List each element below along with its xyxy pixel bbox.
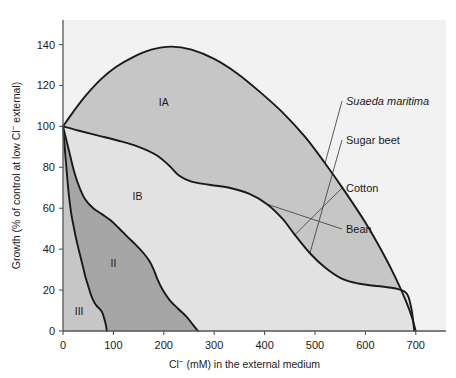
x-tick-label: 500 (306, 339, 324, 351)
region-label-IA: IA (159, 96, 169, 108)
figure-container: 0204060801001201400100200300400500600700… (0, 0, 456, 378)
callout-label-bean: Bean (346, 223, 372, 235)
y-tick-label: 40 (43, 243, 55, 255)
region-label-II: II (110, 257, 116, 269)
y-tick-label: 140 (37, 39, 55, 51)
callout-label-cotton: Cotton (346, 182, 378, 194)
x-tick-label: 0 (60, 339, 66, 351)
callout-label-suaeda-maritima: Suaeda maritima (346, 95, 429, 107)
x-tick-label: 400 (255, 339, 273, 351)
y-tick-label: 80 (43, 161, 55, 173)
y-tick-label: 0 (49, 325, 55, 337)
y-axis-title: Growth (% of control at low Cl− external… (9, 82, 22, 269)
growth-vs-chloride-chart: 0204060801001201400100200300400500600700… (0, 0, 456, 378)
y-tick-label: 60 (43, 202, 55, 214)
x-tick-label: 300 (205, 339, 223, 351)
y-tick-label: 100 (37, 120, 55, 132)
x-tick-label: 200 (155, 339, 173, 351)
callout-label-sugar-beet: Sugar beet (346, 134, 400, 146)
x-axis-title: Cl− (mM) in the external medium (169, 357, 320, 370)
x-tick-label: 100 (104, 339, 122, 351)
y-tick-label: 120 (37, 79, 55, 91)
x-tick-label: 700 (407, 339, 425, 351)
region-label-III: III (75, 305, 84, 317)
x-tick-label: 600 (356, 339, 374, 351)
region-label-IB: IB (133, 190, 143, 202)
y-tick-label: 20 (43, 284, 55, 296)
